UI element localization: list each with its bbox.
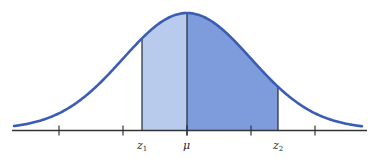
z2-label-subscript: 2 — [279, 145, 283, 153]
z1-label: z1 — [137, 140, 147, 153]
mu-label-text: μ — [183, 139, 190, 152]
z2-label: z2 — [273, 140, 283, 153]
normal-distribution-figure — [0, 0, 381, 158]
mu-label: μ — [183, 140, 190, 151]
z1-label-subscript: 1 — [143, 145, 147, 153]
